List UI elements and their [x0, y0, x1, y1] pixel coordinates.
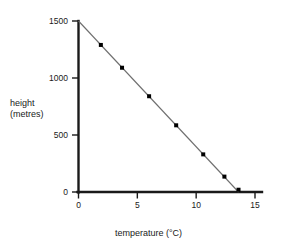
data-point-marker — [237, 188, 241, 192]
y-tick-label-500: 500 — [24, 131, 68, 140]
y-axis-title-line1: height — [10, 98, 44, 109]
data-point-marker — [120, 66, 124, 70]
chart-container: 1500 1000 500 0 0 5 10 15 height (metres… — [0, 0, 297, 247]
y-axis-title: height (metres) — [10, 98, 44, 120]
x-axis-title: temperature (°C) — [0, 228, 297, 239]
data-point-marker — [174, 123, 178, 127]
data-point-marker — [147, 94, 151, 98]
y-tick-label-0: 0 — [24, 188, 68, 197]
x-tick-label-0: 0 — [76, 201, 81, 210]
x-tick-label-10: 10 — [191, 201, 200, 210]
y-axis-title-line2: (metres) — [10, 109, 44, 120]
x-tick-label-5: 5 — [135, 201, 140, 210]
x-tick-label-15: 15 — [250, 201, 259, 210]
y-tick-label-1500: 1500 — [24, 17, 68, 26]
data-point-marker — [99, 43, 103, 47]
y-tick-label-1000: 1000 — [24, 74, 68, 83]
data-point-marker — [201, 152, 205, 156]
data-point-marker — [222, 175, 226, 179]
